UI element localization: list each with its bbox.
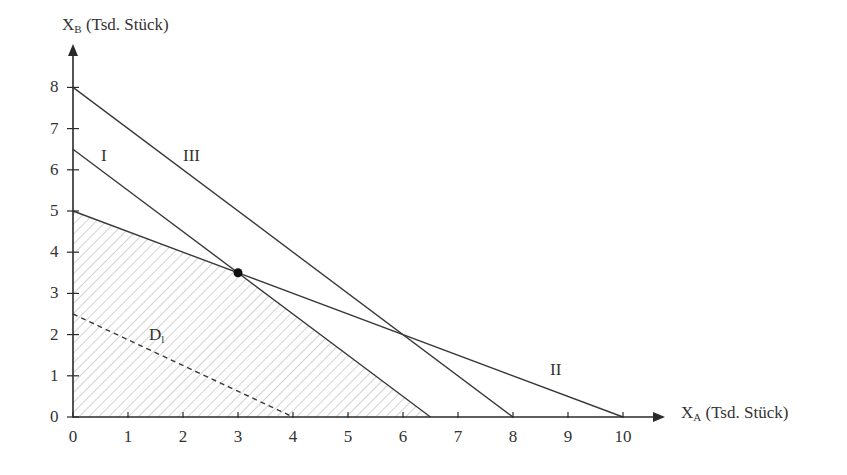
y-tick-label: 3 [50,284,59,301]
x-axis-label-main: X [681,403,693,422]
y-tick-label: 1 [50,367,59,384]
y-axis-arrow-icon [68,44,78,56]
y-tick-label: 2 [50,326,59,343]
x-tick-label: 4 [289,428,298,445]
feasible-region-hatch [73,211,431,417]
y-tick-label: 0 [50,408,59,425]
x-tick-label: 1 [124,428,133,445]
isoprofit-label: Dl [149,326,164,345]
x-tick-label: 10 [615,428,632,445]
x-tick-label: 8 [509,428,518,445]
line-label-II: II [550,361,561,378]
x-tick-label: 0 [69,428,78,445]
y-tick-label: 7 [50,120,59,137]
line-label-III: III [183,147,200,164]
isoprofit-label-sub: l [161,333,164,345]
y-axis-label: XB (Tsd. Stück) [62,16,169,35]
x-axis-label: XA (Tsd. Stück) [681,404,788,423]
line-label-I: I [101,147,107,164]
x-axis-label-unit: (Tsd. Stück) [701,403,788,422]
optimum-point [234,268,243,277]
x-tick-label: 9 [564,428,573,445]
y-tick-label: 6 [50,161,59,178]
optimum-point-marker [234,268,243,277]
y-tick-label: 4 [50,243,59,260]
y-tick-label: 5 [50,202,59,219]
y-axis-label-main: X [62,15,74,34]
isoprofit-label-main: D [149,325,161,344]
y-axis-label-unit: (Tsd. Stück) [82,15,169,34]
x-tick-label: 2 [179,428,188,445]
x-tick-label: 6 [399,428,408,445]
feasible-region [73,211,431,417]
x-axis-arrow-icon [653,412,665,422]
x-tick-label: 7 [454,428,463,445]
x-tick-label: 3 [234,428,243,445]
y-axis-label-sub: B [74,23,81,35]
y-tick-label: 8 [50,78,59,95]
x-tick-label: 5 [344,428,353,445]
